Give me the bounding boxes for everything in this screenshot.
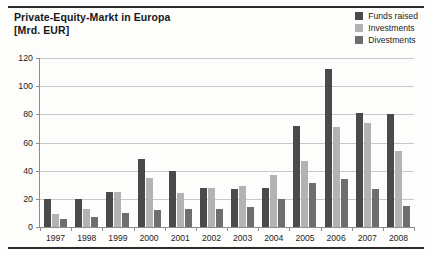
bar-divestments-1999[interactable] [122,213,129,227]
bar-investments-2002[interactable] [208,188,215,227]
bar-funds-raised-2008[interactable] [387,114,394,227]
bar-funds-raised-2006[interactable] [325,69,332,227]
x-axis-tick-label: 2000 [134,233,165,243]
bar-funds-raised-2005[interactable] [293,126,300,227]
bar-funds-raised-2004[interactable] [262,188,269,227]
legend-swatch-divestments [355,36,363,44]
bar-divestments-2008[interactable] [403,206,410,227]
legend-item-label: Divestments [368,35,415,45]
x-axis-ticks [40,227,414,231]
legend-item[interactable]: Funds raised [355,11,418,21]
bar-groups [40,58,414,227]
x-tick-mark [165,227,166,231]
bar-group [383,58,414,227]
page-title: Private-Equity-Markt in Europa [14,11,170,24]
bar-divestments-2001[interactable] [185,209,192,227]
bar-funds-raised-2002[interactable] [200,188,207,227]
x-axis-labels: 1997199819992000200120022003200420052006… [40,233,414,243]
bar-divestments-2004[interactable] [278,199,285,227]
bar-group [102,58,133,227]
bar-group [71,58,102,227]
x-tick-mark [227,227,228,231]
x-tick-mark [102,227,103,231]
chart-figure: Private-Equity-Markt in Europa [Mrd. EUR… [0,0,430,255]
x-axis-tick-label: 2007 [352,233,383,243]
x-axis-tick-label: 2003 [227,233,258,243]
chart-title-block: Private-Equity-Markt in Europa [Mrd. EUR… [14,11,170,38]
y-axis-tick-label: 40 [23,166,33,176]
bar-group [258,58,289,227]
figure-top-rule [8,6,424,8]
x-axis-tick-label: 2002 [196,233,227,243]
x-axis-tick-label: 1998 [71,233,102,243]
bar-funds-raised-1998[interactable] [75,199,82,227]
bar-investments-2003[interactable] [239,186,246,227]
y-axis-tick-label: 120 [18,53,33,63]
bar-funds-raised-2007[interactable] [356,113,363,227]
x-axis-tick-label: 1997 [40,233,71,243]
figure-bottom-rule [8,247,424,249]
x-axis-tick-label: 2005 [289,233,320,243]
bar-funds-raised-2001[interactable] [169,171,176,227]
bar-investments-2007[interactable] [364,123,371,227]
y-axis-tick-label: 80 [23,109,33,119]
y-axis-tick-label: 0 [28,222,33,232]
bar-divestments-2000[interactable] [154,210,161,227]
legend-swatch-investments [355,24,363,32]
x-tick-mark [321,227,322,231]
bar-investments-2005[interactable] [301,161,308,227]
x-tick-mark [289,227,290,231]
x-tick-mark [71,227,72,231]
bar-investments-1999[interactable] [114,192,121,227]
bar-group [227,58,258,227]
x-axis-tick-label: 1999 [102,233,133,243]
bar-investments-2004[interactable] [270,175,277,227]
x-tick-mark [383,227,384,231]
bar-divestments-2002[interactable] [216,209,223,227]
x-axis-tick-label: 2006 [321,233,352,243]
bar-funds-raised-2003[interactable] [231,189,238,227]
bar-divestments-2003[interactable] [247,207,254,227]
bar-funds-raised-1999[interactable] [106,192,113,227]
legend-item[interactable]: Investments [355,23,418,33]
y-axis-tick-label: 20 [23,194,33,204]
legend-swatch-funds-raised [355,12,363,20]
bar-investments-2008[interactable] [395,151,402,227]
bar-group [134,58,165,227]
bar-investments-2000[interactable] [146,178,153,227]
x-tick-mark [134,227,135,231]
bar-group [321,58,352,227]
legend-item-label: Investments [368,23,414,33]
bar-funds-raised-2000[interactable] [138,159,145,227]
bar-investments-2006[interactable] [333,127,340,227]
x-tick-mark [40,227,41,231]
x-axis-tick-label: 2004 [258,233,289,243]
bar-group [289,58,320,227]
x-tick-mark [258,227,259,231]
legend-item-label: Funds raised [368,11,418,21]
bar-divestments-2005[interactable] [309,183,316,227]
bar-investments-1997[interactable] [52,214,59,227]
x-tick-mark [196,227,197,231]
x-tick-mark [352,227,353,231]
plot-area: 020406080100120 199719981999200020012002… [40,58,414,227]
bar-investments-1998[interactable] [83,209,90,227]
bar-divestments-1998[interactable] [91,217,98,227]
bar-investments-2001[interactable] [177,193,184,227]
x-tick-mark [414,227,415,231]
y-axis-tick-label: 100 [18,81,33,91]
bar-divestments-2006[interactable] [341,179,348,227]
bar-group [165,58,196,227]
bar-funds-raised-1997[interactable] [44,199,51,227]
bar-group [352,58,383,227]
y-axis-tick-label: 60 [23,138,33,148]
bar-group [196,58,227,227]
x-axis-tick-label: 2001 [165,233,196,243]
legend-item[interactable]: Divestments [355,35,418,45]
bar-group [40,58,71,227]
chart-legend: Funds raisedInvestmentsDivestments [355,11,418,45]
bar-divestments-1997[interactable] [60,219,67,227]
chart-unit-label: [Mrd. EUR] [14,24,170,37]
x-axis-tick-label: 2008 [383,233,414,243]
bar-divestments-2007[interactable] [372,189,379,227]
